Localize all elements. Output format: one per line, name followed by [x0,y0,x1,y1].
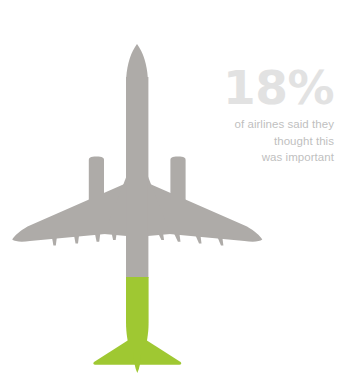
flap-fairing-right-1 [158,233,164,241]
airplane-illustration [0,0,362,390]
statistic-description-line-1: of airlines said they [186,116,334,132]
infographic-canvas: 18% of airlines said they thought this w… [0,0,362,390]
airplane-green-tail [93,277,181,373]
left-engine-nacelle [89,156,104,200]
flap-fairing-right-3 [196,236,202,244]
flap-fairing-right-4 [218,237,224,245]
tail-cone [133,352,141,373]
flap-fairing-right-2 [174,234,180,242]
flap-fairing-left-4 [52,237,57,245]
statistic-description: of airlines said they thought this was i… [186,116,334,165]
right-engine-nacelle [170,156,185,200]
flap-fairing-left-1 [112,233,117,241]
statistic-value: 18% [186,66,334,109]
statistic-block: 18% of airlines said they thought this w… [186,66,334,165]
statistic-description-line-3: was important [186,149,334,165]
flap-fairing-left-3 [74,236,79,244]
flap-fairing-left-2 [95,234,100,242]
fuselage [126,77,148,278]
nose-cone-icon [126,44,148,78]
statistic-description-line-2: thought this [186,133,334,149]
